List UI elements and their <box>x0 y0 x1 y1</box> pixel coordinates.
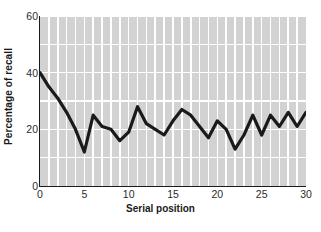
y-tick-label-60: 60 <box>16 11 38 22</box>
y-axis-tick-labels: 0204060 <box>12 0 38 192</box>
x-axis-title: Serial position <box>0 203 321 214</box>
plot-area <box>40 16 306 186</box>
y-tick-label-40: 40 <box>16 68 38 79</box>
x-tick-label-0: 0 <box>28 189 52 200</box>
x-tick-label-25: 25 <box>250 189 274 200</box>
chart-figure: Percentage of recall 0204060 05101520253… <box>0 0 321 232</box>
data-series-line <box>40 16 306 186</box>
x-tick-label-5: 5 <box>72 189 96 200</box>
x-tick-label-10: 10 <box>117 189 141 200</box>
x-tick-label-30: 30 <box>294 189 318 200</box>
x-axis-tick-labels: 051015202530 <box>0 186 321 204</box>
x-tick-label-20: 20 <box>205 189 229 200</box>
x-tick-label-15: 15 <box>161 189 185 200</box>
y-tick-label-20: 20 <box>16 124 38 135</box>
